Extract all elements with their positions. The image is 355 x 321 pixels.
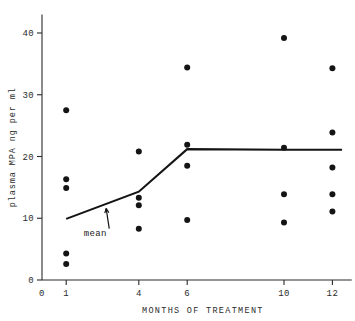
data-point: [63, 176, 69, 182]
data-point: [329, 165, 335, 171]
scatter-plot-svg: 01020304001461012MONTHS OF TREATMENTplas…: [0, 0, 355, 321]
annotations-group: mean: [84, 208, 109, 238]
data-point: [329, 129, 335, 135]
data-point: [184, 217, 190, 223]
x-tick-label-6: 6: [184, 289, 190, 299]
y-tick-label-0: 0: [28, 276, 34, 286]
x-tick-label-0: 0: [39, 289, 45, 299]
y-tick-label-10: 10: [22, 214, 34, 224]
data-point: [184, 65, 190, 71]
mean-line-group: [66, 149, 342, 219]
axes-group: 01020304001461012MONTHS OF TREATMENTplas…: [8, 14, 352, 316]
y-tick-label-30: 30: [22, 91, 34, 101]
x-tick-label-4: 4: [136, 289, 142, 299]
data-point: [136, 226, 142, 232]
y-tick-label-20: 20: [22, 153, 34, 163]
chart-figure: 01020304001461012MONTHS OF TREATMENTplas…: [0, 0, 355, 321]
data-point: [329, 208, 335, 214]
data-point: [136, 149, 142, 155]
x-axis-title: MONTHS OF TREATMENT: [142, 306, 264, 316]
mean-line-mean: [66, 149, 342, 219]
x-tick-label-1: 1: [63, 289, 69, 299]
x-tick-label-10: 10: [278, 289, 290, 299]
data-point: [63, 250, 69, 256]
data-point: [281, 145, 287, 151]
data-point: [184, 163, 190, 169]
x-tick-label-12: 12: [327, 289, 339, 299]
data-point: [63, 261, 69, 267]
data-point: [63, 185, 69, 191]
data-point: [136, 202, 142, 208]
data-point: [281, 220, 287, 226]
y-axis-title: plasma MPA ng per ml: [8, 87, 18, 207]
y-tick-label-40: 40: [22, 29, 34, 39]
data-point: [136, 195, 142, 201]
data-point: [281, 191, 287, 197]
mean-annotation-label: mean: [84, 229, 107, 239]
data-point: [281, 35, 287, 41]
data-point: [329, 191, 335, 197]
data-point: [184, 142, 190, 148]
data-point: [63, 107, 69, 113]
data-point: [329, 65, 335, 71]
